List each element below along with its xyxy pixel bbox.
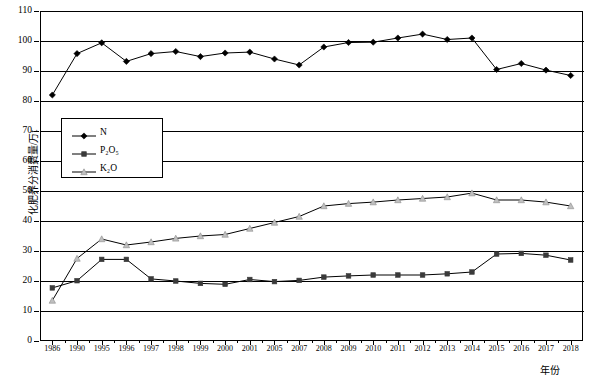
data-point <box>519 251 524 256</box>
data-point <box>173 48 179 54</box>
data-point <box>444 36 450 42</box>
x-axis-minor-tick <box>139 341 140 343</box>
y-axis-tick-label: 110 <box>0 6 32 16</box>
y-axis-tick-label: 10 <box>0 306 32 316</box>
series-line <box>52 253 570 288</box>
data-point <box>99 236 105 242</box>
data-point <box>247 49 253 55</box>
y-axis-tick-mark <box>34 311 39 312</box>
x-axis-tick-mark <box>77 341 78 345</box>
data-point <box>345 39 351 45</box>
x-axis-tick-mark <box>102 341 103 345</box>
y-axis-tick-mark <box>34 341 39 342</box>
data-point <box>49 297 55 303</box>
data-point <box>322 275 327 280</box>
data-point <box>371 273 376 278</box>
data-point <box>297 278 302 283</box>
x-axis-minor-tick <box>435 341 436 343</box>
data-point <box>419 31 425 37</box>
data-point <box>568 72 574 78</box>
data-point <box>173 279 178 284</box>
x-axis-tick-mark <box>472 341 473 345</box>
x-axis-tick-mark <box>521 341 522 345</box>
data-point <box>445 272 450 277</box>
x-axis-tick-mark <box>299 341 300 345</box>
x-axis-minor-tick <box>65 341 66 343</box>
y-axis-tick-mark <box>34 281 39 282</box>
x-axis-tick-mark <box>274 341 275 345</box>
data-point <box>420 273 425 278</box>
x-axis-tick-mark <box>497 341 498 345</box>
data-point <box>470 270 475 275</box>
data-point <box>99 257 104 262</box>
x-axis-tick-mark <box>225 341 226 345</box>
data-point <box>247 277 252 282</box>
y-axis-tick-mark <box>34 71 39 72</box>
legend-item-2: P₂O₅ <box>62 141 162 159</box>
data-point <box>543 67 549 73</box>
x-axis-minor-tick <box>188 341 189 343</box>
x-axis-minor-tick <box>558 341 559 343</box>
y-axis-tick-label: 100 <box>0 36 32 46</box>
x-axis-minor-tick <box>484 341 485 343</box>
x-axis-minor-tick <box>262 341 263 343</box>
series-N <box>49 31 574 98</box>
y-axis-tick-label: 90 <box>0 66 32 76</box>
x-axis-tick-mark <box>176 341 177 345</box>
x-axis-tick-mark <box>423 341 424 345</box>
data-point <box>75 278 80 283</box>
data-point <box>469 190 475 196</box>
data-point <box>271 56 277 62</box>
x-axis-tick-mark <box>349 341 350 345</box>
data-point <box>346 274 351 279</box>
series-K2O <box>49 190 574 303</box>
x-axis-minor-tick <box>312 341 313 343</box>
data-point <box>222 50 228 56</box>
x-axis-tick-mark <box>546 341 547 345</box>
data-point <box>296 213 302 219</box>
data-point <box>395 35 401 41</box>
y-axis-tick-label: 20 <box>0 276 32 286</box>
data-point <box>50 286 55 291</box>
y-axis-tick-label: 0 <box>0 336 32 346</box>
x-axis-minor-tick <box>114 341 115 343</box>
data-point <box>49 92 55 98</box>
x-axis-tick-mark <box>250 341 251 345</box>
series-P2O5 <box>50 251 573 290</box>
legend-label: P₂O₅ <box>100 145 119 155</box>
data-point <box>568 258 573 263</box>
y-axis-tick-mark <box>34 251 39 252</box>
x-axis-minor-tick <box>509 341 510 343</box>
legend-marker-square-icon <box>71 145 97 155</box>
x-axis-tick-mark <box>151 341 152 345</box>
x-axis-tick-label: 2018 <box>553 345 589 353</box>
legend-label: N <box>100 127 107 137</box>
chart-figure: 0102030405060708090100110 化肥养分消费量/万t 198… <box>0 0 595 383</box>
legend-marker-diamond-icon <box>71 127 97 137</box>
x-axis-tick-mark <box>200 341 201 345</box>
y-axis-tick-mark <box>34 41 39 42</box>
legend-label: K₂O <box>100 163 117 173</box>
data-point <box>396 273 401 278</box>
x-axis-minor-tick <box>336 341 337 343</box>
data-point <box>197 54 203 60</box>
y-axis-title: 化肥养分消费量/万t <box>25 103 40 243</box>
x-axis-title: 年份 <box>540 362 560 377</box>
x-axis-minor-tick <box>410 341 411 343</box>
x-axis-minor-tick <box>287 341 288 343</box>
legend-item-1: N <box>62 123 162 141</box>
x-axis-tick-mark <box>571 341 572 345</box>
data-point <box>223 282 228 287</box>
x-axis-minor-tick <box>89 341 90 343</box>
data-point <box>518 60 524 66</box>
data-point <box>494 252 499 257</box>
x-axis-minor-tick <box>460 341 461 343</box>
chart-legend: NP₂O₅K₂O <box>61 118 163 178</box>
x-axis-tick-mark <box>324 341 325 345</box>
data-point <box>544 253 549 258</box>
x-axis-minor-tick <box>361 341 362 343</box>
x-axis-minor-tick <box>213 341 214 343</box>
data-point <box>370 39 376 45</box>
data-point <box>149 277 154 282</box>
data-point <box>124 257 129 262</box>
